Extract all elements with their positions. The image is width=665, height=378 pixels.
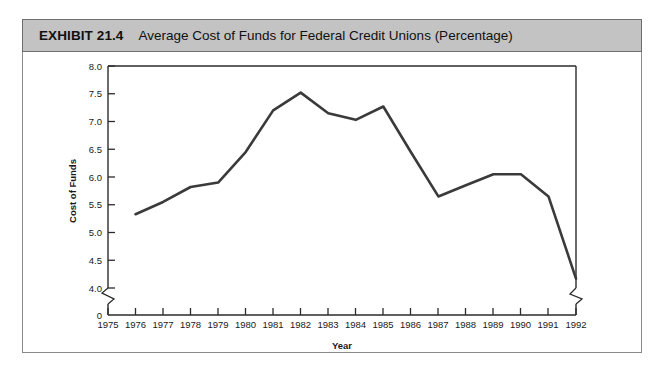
y-tick-label: 7.0 <box>89 116 102 127</box>
x-tick-label: 1976 <box>125 319 146 330</box>
x-axis-ticks <box>108 308 576 315</box>
line-chart: 8.0 7.5 7.0 6.5 6.0 5.5 5.0 4.5 4.0 0 Co… <box>22 52 642 353</box>
x-axis-tick-labels: 1975 1976 1977 1978 1979 1980 1981 1982 … <box>97 319 586 330</box>
x-tick-label: 1989 <box>482 319 503 330</box>
y-tick-label: 5.0 <box>89 227 102 238</box>
y-axis-title: Cost of Funds <box>67 159 78 223</box>
x-tick-label: 1990 <box>510 319 531 330</box>
y-tick-label: 6.0 <box>89 172 102 183</box>
y-tick-label: 4.0 <box>89 283 102 294</box>
x-tick-label: 1977 <box>152 319 173 330</box>
exhibit-figure: EXHIBIT 21.4 Average Cost of Funds for F… <box>0 0 665 378</box>
x-axis-title: Year <box>332 340 352 351</box>
x-tick-label: 1980 <box>235 319 256 330</box>
x-tick-label: 1991 <box>537 319 558 330</box>
y-tick-label: 5.5 <box>89 199 102 210</box>
y-axis-ticks <box>108 66 115 288</box>
x-tick-label: 1981 <box>262 319 283 330</box>
y-tick-label: 8.0 <box>89 61 102 72</box>
exhibit-number-label: EXHIBIT 21.4 <box>39 28 123 43</box>
x-tick-label: 1986 <box>400 319 421 330</box>
exhibit-header-band: EXHIBIT 21.4 Average Cost of Funds for F… <box>22 19 642 52</box>
x-tick-label: 1985 <box>372 319 393 330</box>
x-tick-label: 1992 <box>565 319 586 330</box>
x-tick-label: 1984 <box>345 319 366 330</box>
y-axis-tick-labels: 8.0 7.5 7.0 6.5 6.0 5.5 5.0 4.5 4.0 0 <box>89 61 102 322</box>
data-series-line <box>136 93 576 279</box>
y-tick-label: 4.5 <box>89 255 102 266</box>
exhibit-title-label: Average Cost of Funds for Federal Credit… <box>138 28 512 43</box>
x-tick-label: 1975 <box>97 319 118 330</box>
y-axis-break-symbol <box>102 288 114 304</box>
x-tick-label: 1983 <box>317 319 338 330</box>
x-tick-label: 1979 <box>207 319 228 330</box>
x-axis-break-symbol <box>570 288 582 304</box>
x-tick-label: 1987 <box>427 319 448 330</box>
y-tick-label: 6.5 <box>89 144 102 155</box>
y-tick-label: 7.5 <box>89 88 102 99</box>
x-tick-label: 1982 <box>290 319 311 330</box>
x-tick-label: 1978 <box>180 319 201 330</box>
x-tick-label: 1988 <box>455 319 476 330</box>
plot-frame <box>108 66 576 315</box>
chart-region: 8.0 7.5 7.0 6.5 6.0 5.5 5.0 4.5 4.0 0 Co… <box>22 52 642 353</box>
